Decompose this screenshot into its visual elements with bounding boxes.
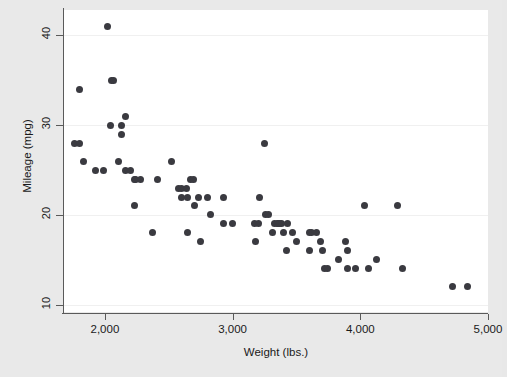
y-tick-mark-20 [56,215,63,216]
data-point [107,122,114,129]
data-point [464,283,471,290]
data-point [184,194,191,201]
data-point [229,220,236,227]
y-tick-label-text: 20 [40,207,52,219]
data-point [220,220,227,227]
y-tick-label-text: 40 [40,27,52,39]
y-tick-label-text: 30 [40,117,52,129]
y-tick-label-10: 10 [0,297,52,309]
data-point [127,167,134,174]
data-point [449,283,456,290]
y-tick-label-40: 40 [0,27,52,39]
data-point [220,194,227,201]
data-point [195,194,202,201]
gridline-y-10 [64,305,488,306]
data-point [197,238,204,245]
data-point [204,194,211,201]
data-point [342,238,349,245]
x-tick-label-5000: 5,000 [453,323,507,335]
data-point [344,265,351,272]
data-point [313,229,320,236]
data-point [324,265,331,272]
x-tick-label-2000: 2,000 [70,323,140,335]
data-point [190,176,197,183]
data-point [394,202,401,209]
x-axis-title: Weight (lbs.) [64,346,488,358]
data-point [154,176,161,183]
data-point [365,265,372,272]
gridline-y-20 [64,215,488,216]
data-point [168,158,175,165]
data-point [122,113,129,120]
x-axis-line [62,313,488,314]
data-point [306,247,313,254]
data-point [317,238,324,245]
data-point [399,265,406,272]
data-point [335,256,342,263]
data-point [280,229,287,236]
data-point [115,158,122,165]
data-point [252,238,259,245]
data-point [344,247,351,254]
x-tick-mark-5000 [488,314,489,320]
data-point [131,202,138,209]
data-point [373,256,380,263]
data-point [80,158,87,165]
data-point [361,202,368,209]
data-point [110,77,117,84]
y-axis-title: Mileage (mpg) [21,81,33,231]
data-point [289,229,296,236]
data-point [76,86,83,93]
data-point [284,220,291,227]
y-tick-label-text: 10 [40,297,52,309]
data-point [256,194,263,201]
data-point [118,122,125,129]
data-point [183,185,190,192]
x-tick-mark-4000 [360,314,361,320]
data-point [261,140,268,147]
data-point [283,247,290,254]
data-point [191,202,198,209]
gridline-y-40 [64,35,488,36]
x-tick-mark-2000 [105,314,106,320]
y-tick-mark-10 [56,305,63,306]
data-point [184,229,191,236]
data-point [137,176,144,183]
x-tick-label-3000: 3,000 [198,323,268,335]
y-axis-line [63,8,64,314]
x-tick-label-4000: 4,000 [325,323,395,335]
data-point [207,211,214,218]
data-point [100,167,107,174]
data-point [319,247,326,254]
plot-area [64,10,488,312]
data-point [293,238,300,245]
gridline-y-30 [64,125,488,126]
data-point [104,23,111,30]
x-tick-mark-3000 [233,314,234,320]
data-point [255,220,262,227]
data-point [352,265,359,272]
data-point [269,229,276,236]
data-point [149,229,156,236]
data-point [92,167,99,174]
y-tick-mark-40 [56,35,63,36]
y-tick-mark-30 [56,125,63,126]
data-point [118,131,125,138]
data-point [76,140,83,147]
data-point [265,211,272,218]
